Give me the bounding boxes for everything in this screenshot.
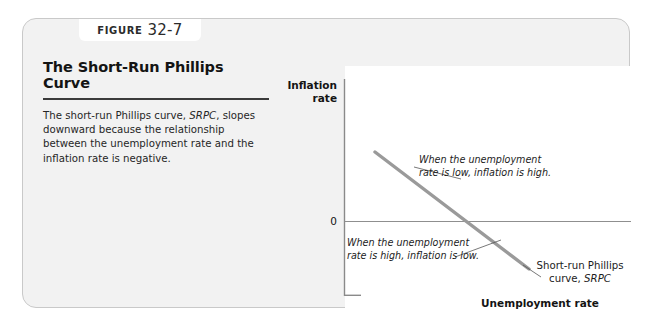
figure-description: The short-run Phillips curve, SRPC, slop… bbox=[43, 109, 261, 166]
figure-label-word: FIGURE bbox=[97, 25, 142, 36]
figure-number-tab: FIGURE 32-7 bbox=[79, 19, 201, 41]
figure-number: 32-7 bbox=[147, 21, 182, 39]
phillips-curve-chart: Inflation rate 0 Unemployment rate When … bbox=[273, 41, 631, 309]
curve-label: Short-run Phillips curve, SRPC bbox=[521, 259, 639, 285]
annotation-high-unemployment-low-inflation: When the unemployment rate is high, infl… bbox=[347, 237, 507, 262]
figure-card: FIGURE 32-7 The Short-Run Phillips Curve… bbox=[22, 18, 630, 308]
title-divider bbox=[43, 98, 269, 100]
curve-label-symbol: SRPC bbox=[584, 273, 611, 284]
description-symbol: SRPC bbox=[189, 110, 216, 121]
description-text-lead: The short-run Phillips curve, bbox=[43, 110, 189, 121]
figure-title: The Short-Run Phillips Curve bbox=[43, 59, 271, 98]
caption-block: The Short-Run Phillips Curve The short-r… bbox=[43, 59, 271, 166]
annotation-low-unemployment-high-inflation: When the unemployment rate is low, infla… bbox=[419, 154, 579, 179]
